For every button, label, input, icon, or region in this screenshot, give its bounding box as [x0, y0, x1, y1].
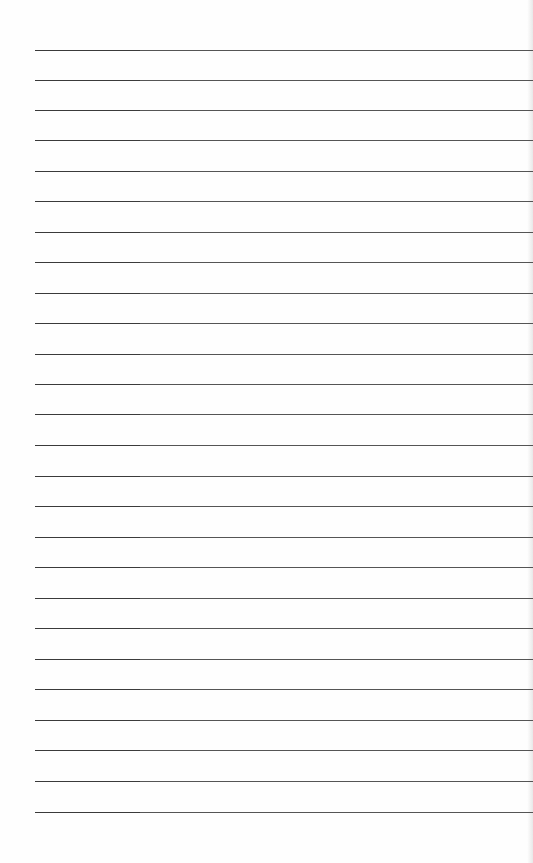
- ruled-line: [35, 812, 533, 813]
- ruled-line: [35, 354, 533, 355]
- ruled-line: [35, 659, 533, 660]
- ruled-line-main-segment: [140, 262, 533, 263]
- page-edge-shadow: [527, 0, 533, 863]
- ruled-line-main-segment: [140, 506, 533, 507]
- ruled-line-main-segment: [140, 781, 533, 782]
- ruled-line-margin-segment: [35, 781, 140, 782]
- ruled-line: [35, 201, 533, 202]
- ruled-line-margin-segment: [35, 476, 140, 477]
- ruled-line-main-segment: [140, 140, 533, 141]
- ruled-line-margin-segment: [35, 232, 140, 233]
- ruled-line-margin-segment: [35, 414, 140, 415]
- ruled-line-margin-segment: [35, 80, 140, 81]
- ruled-line: [35, 232, 533, 233]
- ruled-line-main-segment: [140, 537, 533, 538]
- lined-paper-page: [0, 0, 533, 863]
- ruled-line-margin-segment: [35, 567, 140, 568]
- ruled-line: [35, 80, 533, 81]
- ruled-line-margin-segment: [35, 720, 140, 721]
- ruled-line: [35, 171, 533, 172]
- ruled-line: [35, 689, 533, 690]
- ruled-line-main-segment: [140, 750, 533, 751]
- ruled-line: [35, 598, 533, 599]
- ruled-line-margin-segment: [35, 537, 140, 538]
- ruled-line: [35, 414, 533, 415]
- ruled-line: [35, 750, 533, 751]
- ruled-line-main-segment: [140, 659, 533, 660]
- ruled-line-main-segment: [140, 171, 533, 172]
- ruled-line: [35, 476, 533, 477]
- ruled-line-main-segment: [140, 293, 533, 294]
- ruled-line-margin-segment: [35, 628, 140, 629]
- ruled-line-margin-segment: [35, 598, 140, 599]
- ruled-line-margin-segment: [35, 262, 140, 263]
- ruled-line-margin-segment: [35, 445, 140, 446]
- ruled-line-margin-segment: [35, 354, 140, 355]
- ruled-line-main-segment: [140, 812, 533, 813]
- ruled-line-margin-segment: [35, 659, 140, 660]
- ruled-line-main-segment: [140, 414, 533, 415]
- ruled-line: [35, 506, 533, 507]
- ruled-line: [35, 293, 533, 294]
- ruled-line-main-segment: [140, 110, 533, 111]
- ruled-line: [35, 537, 533, 538]
- ruled-line-main-segment: [140, 384, 533, 385]
- ruled-line-main-segment: [140, 628, 533, 629]
- ruled-line-main-segment: [140, 50, 533, 51]
- ruled-line-main-segment: [140, 720, 533, 721]
- ruled-line-margin-segment: [35, 171, 140, 172]
- ruled-line-margin-segment: [35, 323, 140, 324]
- ruled-line-margin-segment: [35, 812, 140, 813]
- ruled-line-margin-segment: [35, 140, 140, 141]
- ruled-line-main-segment: [140, 445, 533, 446]
- ruled-line-margin-segment: [35, 201, 140, 202]
- ruled-line: [35, 720, 533, 721]
- ruled-line-main-segment: [140, 354, 533, 355]
- ruled-line-main-segment: [140, 598, 533, 599]
- ruled-line-main-segment: [140, 689, 533, 690]
- ruled-line-margin-segment: [35, 110, 140, 111]
- ruled-line: [35, 323, 533, 324]
- ruled-line-main-segment: [140, 232, 533, 233]
- ruled-line-main-segment: [140, 323, 533, 324]
- ruled-line: [35, 781, 533, 782]
- ruled-line-margin-segment: [35, 750, 140, 751]
- ruled-line: [35, 384, 533, 385]
- ruled-line-main-segment: [140, 567, 533, 568]
- ruled-line: [35, 140, 533, 141]
- ruled-line: [35, 50, 533, 51]
- ruled-line-margin-segment: [35, 384, 140, 385]
- ruled-line-margin-segment: [35, 689, 140, 690]
- ruled-line-main-segment: [140, 201, 533, 202]
- ruled-line: [35, 445, 533, 446]
- ruled-line-main-segment: [140, 80, 533, 81]
- ruled-line: [35, 628, 533, 629]
- ruled-line: [35, 567, 533, 568]
- ruled-line-margin-segment: [35, 293, 140, 294]
- ruled-line-margin-segment: [35, 506, 140, 507]
- ruled-line: [35, 110, 533, 111]
- ruled-line-main-segment: [140, 476, 533, 477]
- ruled-line-margin-segment: [35, 50, 140, 51]
- ruled-line: [35, 262, 533, 263]
